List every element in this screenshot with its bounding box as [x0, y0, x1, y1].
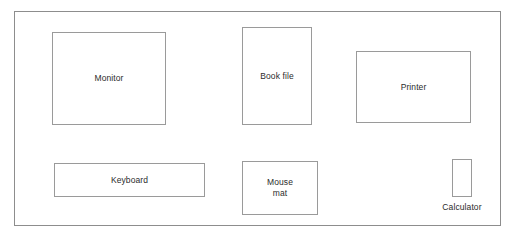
item-monitor[interactable]: Monitor	[52, 32, 166, 125]
item-monitor-label: Monitor	[94, 73, 123, 84]
desk-outline: Monitor Book file Printer Keyboard Mouse…	[14, 11, 501, 226]
item-mouse-mat-label: Mouse mat	[267, 177, 293, 199]
item-book-file[interactable]: Book file	[242, 27, 312, 125]
item-mouse-mat[interactable]: Mouse mat	[242, 161, 318, 215]
item-printer[interactable]: Printer	[356, 51, 471, 123]
item-keyboard[interactable]: Keyboard	[54, 163, 205, 197]
item-book-file-label: Book file	[260, 71, 294, 82]
item-printer-label: Printer	[401, 82, 427, 93]
item-calculator[interactable]	[452, 159, 472, 197]
desk-layout-diagram: Monitor Book file Printer Keyboard Mouse…	[0, 0, 514, 238]
item-calculator-label: Calculator	[431, 202, 493, 213]
item-keyboard-label: Keyboard	[111, 175, 148, 186]
